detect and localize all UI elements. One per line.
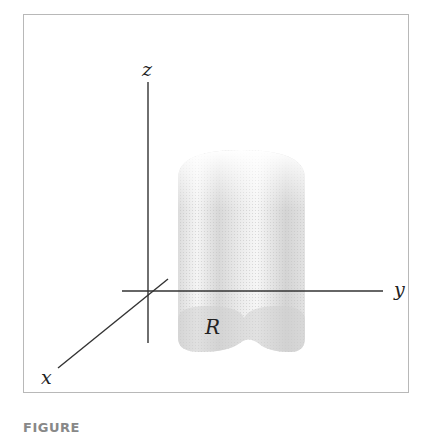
z-axis-label: z (142, 60, 152, 79)
y-axis-label: y (394, 280, 405, 299)
cylinder-solid (178, 150, 305, 352)
x-axis (58, 279, 168, 368)
figure-caption: FIGURE (23, 420, 80, 435)
region-label: R (205, 317, 220, 337)
x-axis-label: x (41, 368, 52, 387)
